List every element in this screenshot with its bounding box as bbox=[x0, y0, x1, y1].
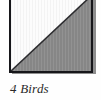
quilt-block-figure: 4 Birds bbox=[0, 0, 101, 100]
figure-caption: 4 Birds bbox=[10, 82, 49, 96]
quilt-block-wrapper bbox=[9, 0, 93, 73]
quilt-block bbox=[9, 0, 93, 73]
